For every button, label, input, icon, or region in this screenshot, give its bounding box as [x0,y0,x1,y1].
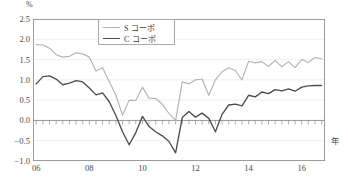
chart-screenshot: % 年 2.52.01.51.00.50.0−0.5−1.00608101214… [0,0,348,184]
y-axis-tick-label: −1.0 [15,156,30,166]
legend-item-c: C コーポ [103,33,174,44]
y-axis-tick-label: 0.0 [19,115,30,125]
legend-item-s: S コーポ [103,22,174,33]
x-axis-tick-label: 10 [138,163,147,173]
x-axis-tick-label: 12 [191,163,200,173]
chart-svg [33,19,325,161]
legend-label-s: S コーポ [124,22,155,33]
y-axis-tick-label: 1.0 [19,75,30,85]
y-axis-tick-label: 2.5 [19,14,30,24]
plot-area: 2.52.01.51.00.50.0−0.5−1.0060810121416 [33,19,325,161]
series-line-s [36,45,321,121]
x-axis-tick-label: 14 [244,163,253,173]
x-axis-tick-label: 08 [85,163,94,173]
x-axis-tick-label: 16 [297,163,306,173]
x-axis-title: 年 [331,134,340,146]
chart-legend: S コーポ C コーポ [98,19,175,45]
y-axis-tick-label: −0.5 [15,136,30,146]
x-axis-tick-label: 06 [32,163,41,173]
legend-swatch-c [103,38,120,39]
y-axis-unit-label: % [26,0,33,10]
y-axis-tick-label: 0.5 [19,95,30,105]
y-axis-tick-label: 2.0 [19,34,30,44]
legend-swatch-s [103,27,120,28]
legend-label-c: C コーポ [124,33,156,44]
y-axis-tick-label: 1.5 [19,55,30,65]
series-line-c [36,76,321,153]
